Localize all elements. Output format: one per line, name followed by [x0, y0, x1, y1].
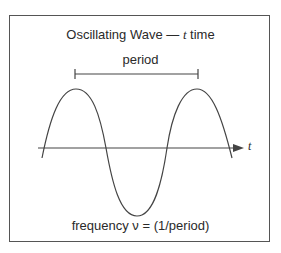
- sine-wave: [42, 89, 232, 216]
- wave-diagram: [0, 0, 281, 253]
- period-bracket: [75, 69, 198, 79]
- frequency-caption: frequency ν = (1/period): [0, 218, 281, 233]
- axis-label-t: t: [248, 139, 251, 154]
- axis-arrow-icon: [233, 144, 244, 152]
